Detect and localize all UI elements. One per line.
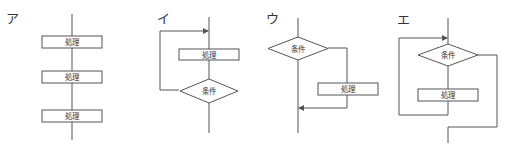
process-text: 処理 xyxy=(65,111,80,121)
diagram-u-selection: ウ 条件 処理 xyxy=(266,11,378,133)
decision-text: 条件 xyxy=(441,50,456,60)
diagram-u-process: 処理 xyxy=(318,83,378,95)
diagram-e-process: 処理 xyxy=(418,89,478,101)
diagram-i-label: イ xyxy=(157,11,170,26)
process-text: 処理 xyxy=(441,90,456,100)
diagram-i-decision: 条件 xyxy=(180,79,238,103)
diagram-a-process-2: 処理 xyxy=(42,71,102,83)
diagram-e-decision: 条件 xyxy=(418,44,478,66)
diagram-u-label: ウ xyxy=(266,11,279,26)
diagram-a-process-3: 処理 xyxy=(42,110,102,122)
process-text: 処理 xyxy=(65,37,80,47)
process-text: 処理 xyxy=(65,72,80,82)
decision-text: 条件 xyxy=(202,86,217,96)
diagram-a-label: ア xyxy=(6,11,19,26)
diagram-a-sequence: ア 処理 処理 処理 xyxy=(6,11,102,140)
diagram-i-process: 処理 xyxy=(179,49,239,60)
decision-text: 条件 xyxy=(291,44,306,54)
flowchart-canvas: ア 処理 処理 処理 イ 処理 条件 ウ xyxy=(0,0,520,149)
diagram-i-post-test-loop: イ 処理 条件 xyxy=(157,11,239,133)
process-text: 処理 xyxy=(202,50,217,60)
diagram-u-decision: 条件 xyxy=(268,37,328,60)
diagram-a-process-1: 処理 xyxy=(42,36,102,48)
diagram-e-label: エ xyxy=(397,12,410,27)
process-text: 処理 xyxy=(341,84,356,94)
diagram-e-pre-test-loop: エ 条件 処理 xyxy=(397,12,497,143)
